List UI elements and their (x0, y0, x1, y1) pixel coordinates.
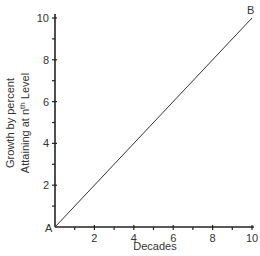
x-tick-label: 8 (210, 232, 216, 244)
y-tick-label: 2 (43, 179, 49, 191)
x-tick-label: 2 (91, 232, 97, 244)
y-tick-label: 8 (43, 54, 49, 66)
x-axis-title: Decades (133, 240, 177, 252)
y-tick-label: 10 (37, 12, 49, 24)
point-label-b: B (247, 4, 254, 16)
y-axis-title: Growth by percent Attaining at nth Level (4, 73, 31, 173)
series-line (55, 18, 252, 227)
y-tick-label: 4 (43, 137, 49, 149)
y-axis-title-line1: Growth by percent (4, 78, 16, 168)
x-tick-label: 10 (246, 232, 258, 244)
data-series (55, 18, 252, 227)
point-annotations: AB (45, 4, 254, 234)
point-label-a: A (45, 222, 53, 234)
line-chart: 246810246810 AB Decades Growth by percen… (0, 0, 260, 256)
y-axis-title-line2: Attaining at nth Level (18, 73, 31, 173)
y-tick-label: 6 (43, 96, 49, 108)
